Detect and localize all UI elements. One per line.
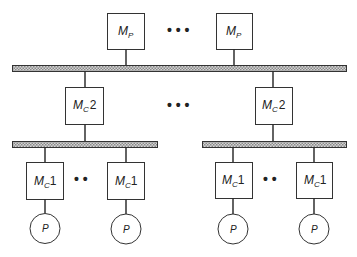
ellipsis: • • <box>74 171 88 187</box>
main-memory-module-2: MP <box>217 14 253 50</box>
svg-text:P: P <box>123 224 130 235</box>
svg-text:P: P <box>230 224 237 235</box>
system-bus <box>13 66 347 72</box>
processor-3: P <box>218 214 248 244</box>
processor-2: P <box>111 214 141 244</box>
l1-cache-4: MC1 <box>297 163 333 199</box>
l1-cache-2: MC1 <box>108 163 145 200</box>
svg-text:P: P <box>42 223 49 234</box>
l2-cache-1: MC2 <box>66 88 104 125</box>
svg-text:P: P <box>311 224 318 235</box>
l1-cache-3: MC1 <box>216 163 253 199</box>
ellipsis: • • <box>263 171 277 187</box>
cluster-bus-left <box>13 142 158 148</box>
cluster-bus-right <box>203 142 347 148</box>
l1-cache-1: MC1 <box>27 163 64 200</box>
processor-1: P <box>30 214 60 244</box>
processor-4: P <box>299 214 329 244</box>
ellipsis: • • • <box>167 22 190 38</box>
l2-cache-2: MC2 <box>256 88 293 125</box>
main-memory-module-1: MP <box>108 14 145 50</box>
ellipsis: • • • <box>167 97 190 113</box>
memory-hierarchy-diagram: MP • • • MP MC2 • • • MC2 MC1 P • • MC1 <box>0 0 357 257</box>
